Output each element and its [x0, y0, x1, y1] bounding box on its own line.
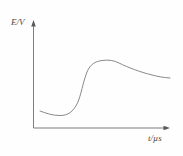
- x-axis-label: t/µs: [148, 133, 162, 143]
- data-curve-series-1: [40, 60, 170, 115]
- y-axis-arrowhead: [31, 20, 36, 27]
- chart-figure: E/V t/µs: [0, 0, 183, 156]
- x-axis-arrowhead: [164, 126, 171, 131]
- y-axis-label: E/V: [11, 17, 25, 27]
